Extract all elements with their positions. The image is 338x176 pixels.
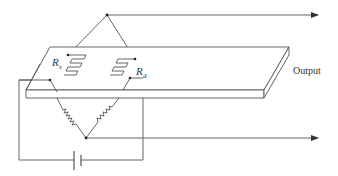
bridge-resistors <box>57 98 119 138</box>
cantilever-plate <box>26 47 289 98</box>
svg-text:R: R <box>135 65 143 77</box>
svg-text:s: s <box>59 63 62 71</box>
strain-gauge-bridge-diagram: R s R d Output <box>0 0 338 176</box>
svg-text:R: R <box>51 56 59 68</box>
output-label: Output <box>293 65 321 76</box>
svg-text:d: d <box>143 72 147 80</box>
battery-icon <box>74 151 81 170</box>
